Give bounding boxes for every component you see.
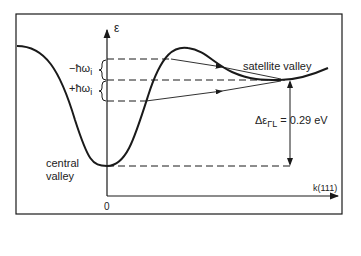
- scatter-line-lower: [222, 81, 281, 91]
- central-valley-line1: central: [46, 157, 79, 170]
- energy-gap-symbol: Δε: [255, 114, 267, 126]
- scatter-arrow-lower: [146, 91, 222, 101]
- phonon-absorption-sub: i: [90, 87, 92, 97]
- brace-plus: [99, 81, 106, 101]
- energy-gap-value: = 0.29 eV: [280, 114, 327, 126]
- phonon-emission-label: −ħωi: [69, 62, 92, 78]
- central-valley-line2: valley: [46, 170, 79, 183]
- k-axis-label: k(111): [313, 182, 337, 194]
- origin-label: 0: [104, 201, 110, 213]
- central-valley-label: central valley: [46, 157, 79, 183]
- phonon-emission-sub: i: [90, 67, 92, 77]
- satellite-valley-label: satellite valley: [243, 60, 311, 72]
- energy-gap-sub: ΓL: [267, 119, 277, 129]
- energy-axis-label: ε: [114, 22, 119, 34]
- brace-minus: [99, 60, 106, 80]
- phonon-absorption-text: +ħω: [69, 82, 90, 94]
- phonon-absorption-label: +ħωi: [69, 82, 92, 98]
- phonon-emission-text: −ħω: [69, 62, 90, 74]
- energy-gap-label: ΔεΓL = 0.29 eV: [255, 114, 328, 130]
